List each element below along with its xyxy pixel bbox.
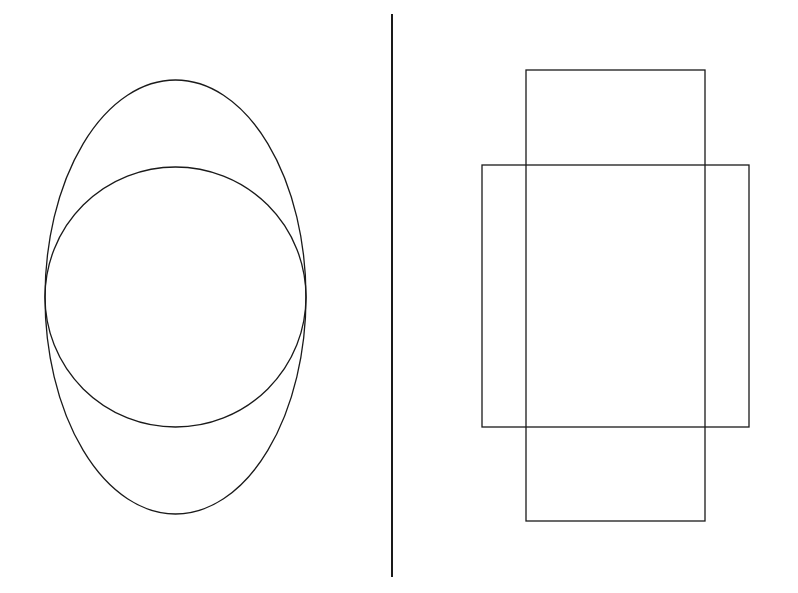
left-panel (45, 80, 306, 514)
inner-circle (45, 167, 306, 427)
tall-ellipse (45, 80, 306, 514)
wide-rectangle (482, 165, 749, 427)
right-panel (482, 70, 749, 521)
diagram-canvas (0, 0, 798, 593)
tall-rectangle (526, 70, 705, 521)
